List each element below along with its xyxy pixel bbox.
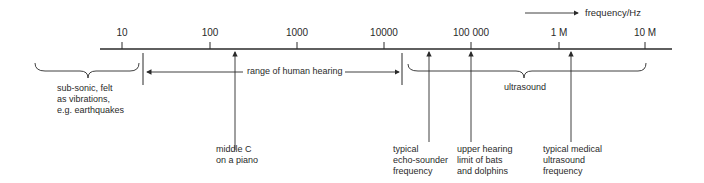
- middle-c-label: middle C on a piano: [216, 144, 258, 166]
- human-hearing-label: range of human hearing: [245, 66, 345, 77]
- medical-label: typical medical ultrasound frequency: [543, 144, 602, 177]
- subsonic-label: sub-sonic, felt as vibrations, e.g. eart…: [57, 83, 124, 116]
- ultrasound-label: ultrasound: [504, 82, 546, 93]
- tick-label: 1000: [286, 27, 308, 38]
- axis-title: frequency/Hz: [585, 7, 641, 18]
- tick-label: 10 M: [634, 27, 656, 38]
- tick-label: 10: [116, 27, 127, 38]
- ultrasound-brace: [408, 63, 646, 78]
- tick-label: 10000: [370, 27, 398, 38]
- bats-label: upper hearing limit of bats and dolphins: [457, 144, 513, 177]
- tick-label: 1 M: [551, 27, 568, 38]
- echo-sounder-label: typical echo-sounder frequency: [393, 144, 448, 177]
- tick-label: 100: [202, 27, 219, 38]
- axis-ticks: [122, 42, 645, 49]
- tick-label: 100 000: [453, 27, 489, 38]
- subsonic-brace: [35, 63, 139, 78]
